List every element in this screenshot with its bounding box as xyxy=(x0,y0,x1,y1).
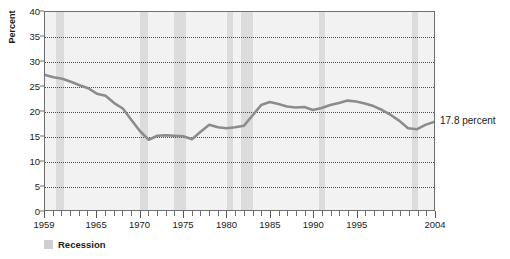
x-tick-major xyxy=(270,211,271,218)
x-tick-minor xyxy=(218,211,219,216)
x-tick-minor xyxy=(122,211,123,216)
x-tick-minor xyxy=(418,211,419,216)
x-tick-minor xyxy=(400,211,401,216)
x-tick-minor xyxy=(209,211,210,216)
y-tick-label: 15 xyxy=(0,131,40,142)
x-tick-major xyxy=(140,211,141,218)
x-tick-minor xyxy=(305,211,306,216)
x-tick-minor xyxy=(87,211,88,216)
x-tick-minor xyxy=(426,211,427,216)
series-line-svg xyxy=(45,12,434,210)
x-tick-minor xyxy=(131,211,132,216)
x-tick-minor xyxy=(409,211,410,216)
x-tick-minor xyxy=(339,211,340,216)
y-tick-label: 30 xyxy=(0,56,40,67)
x-tick-minor xyxy=(105,211,106,216)
x-tick-major xyxy=(435,211,436,218)
x-tick-minor xyxy=(392,211,393,216)
x-tick-minor xyxy=(235,211,236,216)
x-tick-minor xyxy=(279,211,280,216)
y-tick-label: 40 xyxy=(0,6,40,17)
x-tick-minor xyxy=(348,211,349,216)
x-tick-minor xyxy=(148,211,149,216)
x-tick-label: 2004 xyxy=(424,219,445,230)
y-tick-label: 25 xyxy=(0,81,40,92)
x-tick-minor xyxy=(114,211,115,216)
x-tick-minor xyxy=(70,211,71,216)
x-tick-minor xyxy=(192,211,193,216)
x-tick-label: 1985 xyxy=(259,219,280,230)
legend-label-recession: Recession xyxy=(58,239,106,250)
x-tick-label: 1980 xyxy=(216,219,237,230)
legend-swatch-recession xyxy=(44,240,53,249)
x-tick-minor xyxy=(157,211,158,216)
plot-area xyxy=(44,11,435,211)
y-tick-label: 35 xyxy=(0,31,40,42)
y-tick-label: 5 xyxy=(0,181,40,192)
x-tick-label: 1965 xyxy=(86,219,107,230)
series-line-percent xyxy=(45,75,434,140)
x-tick-minor xyxy=(331,211,332,216)
x-tick-major xyxy=(96,211,97,218)
y-tick-label: 10 xyxy=(0,156,40,167)
x-tick-minor xyxy=(374,211,375,216)
plot-inner xyxy=(45,12,434,210)
x-tick-minor xyxy=(287,211,288,216)
x-tick-minor xyxy=(200,211,201,216)
x-tick-minor xyxy=(296,211,297,216)
x-tick-minor xyxy=(322,211,323,216)
x-tick-label: 1975 xyxy=(172,219,193,230)
x-tick-minor xyxy=(174,211,175,216)
x-tick-major xyxy=(357,211,358,218)
x-tick-minor xyxy=(79,211,80,216)
x-tick-major xyxy=(226,211,227,218)
legend: Recession xyxy=(44,239,106,250)
x-tick-major xyxy=(44,211,45,218)
x-tick-label: 1970 xyxy=(129,219,150,230)
x-tick-major xyxy=(183,211,184,218)
x-tick-minor xyxy=(61,211,62,216)
x-tick-label: 1995 xyxy=(346,219,367,230)
x-tick-minor xyxy=(244,211,245,216)
y-tick-label: 0 xyxy=(0,206,40,217)
x-tick-minor xyxy=(261,211,262,216)
x-tick-label: 1959 xyxy=(33,219,54,230)
x-tick-minor xyxy=(253,211,254,216)
y-tick-label: 20 xyxy=(0,106,40,117)
x-tick-minor xyxy=(383,211,384,216)
x-tick-label: 1990 xyxy=(303,219,324,230)
x-tick-minor xyxy=(53,211,54,216)
chart-root: Percent 0510152025303540 195919651970197… xyxy=(0,0,510,259)
x-tick-minor xyxy=(166,211,167,216)
y-axis-ticks: 0510152025303540 xyxy=(0,11,40,211)
x-tick-major xyxy=(313,211,314,218)
x-axis: 195919651970197519801985199019952004 xyxy=(44,211,435,237)
series-end-annotation: 17.8 percent xyxy=(440,115,496,126)
x-tick-minor xyxy=(365,211,366,216)
